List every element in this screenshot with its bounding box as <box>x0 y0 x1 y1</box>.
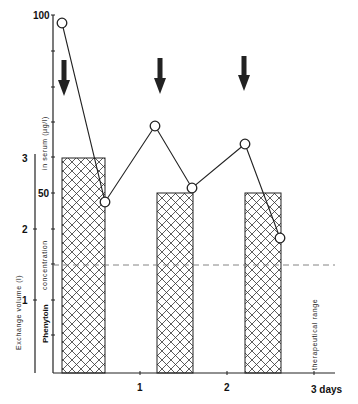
bar-1 <box>62 158 105 373</box>
y-inner-title-serum: in serum (µg/l) <box>41 116 49 170</box>
down-arrow-icon <box>154 58 166 94</box>
y-axis-phenytoin: 100 50 Phenytoin concentration in serum … <box>33 10 55 373</box>
bar-3 <box>245 193 281 373</box>
y-axis-exchange-volume: 3 2 1 Exchange volume (l) <box>15 153 37 373</box>
x-tick-1: 1 <box>137 382 143 393</box>
data-point <box>150 121 160 131</box>
y-inner-tick-100: 100 <box>33 10 50 21</box>
y-inner-title-concentration: concentration <box>41 240 48 290</box>
therapeutic-range-label: therapeutical range <box>311 299 319 370</box>
down-arrow-icon <box>58 60 70 96</box>
bar-2 <box>157 193 193 373</box>
y-outer-title: Exchange volume (l) <box>15 275 23 350</box>
x-tick-2: 2 <box>224 382 230 393</box>
y-outer-tick-1: 1 <box>22 295 28 306</box>
y-inner-tick-50: 50 <box>38 188 50 199</box>
data-point <box>275 233 285 243</box>
x-tick-3-days: 3 days <box>311 384 343 395</box>
x-axis: 1 2 3 days <box>53 371 343 395</box>
down-arrow-icon <box>238 56 250 91</box>
data-point <box>100 197 110 207</box>
exchange-volume-bars <box>62 158 281 373</box>
data-point <box>57 18 67 28</box>
y-inner-title-phenytoin: Phenytoin <box>41 304 50 343</box>
data-point <box>187 183 197 193</box>
chart: 3 2 1 Exchange volume (l) 100 50 Phenyto… <box>0 0 358 404</box>
y-outer-tick-2: 2 <box>22 224 28 235</box>
y-outer-tick-3: 3 <box>22 153 28 164</box>
data-point <box>240 139 250 149</box>
